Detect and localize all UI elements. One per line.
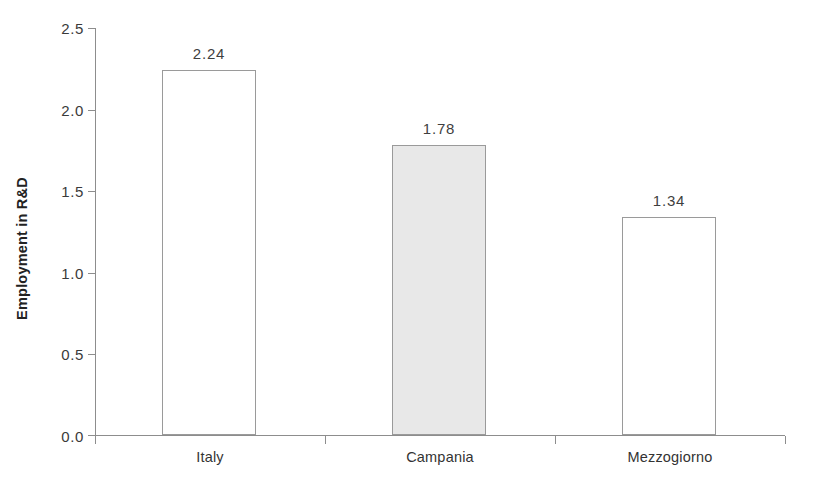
x-tick-mark — [785, 436, 786, 444]
y-tick-label: 0.0 — [40, 428, 84, 445]
bar-value-label-campania: 1.78 — [423, 120, 455, 137]
bar-mezzogiorno — [622, 217, 716, 435]
bar-chart: Employment in R&D 2.5 2.0 1.5 1.0 0.5 0.… — [0, 0, 821, 497]
y-axis-line — [95, 28, 96, 436]
y-tick-label: 1.5 — [40, 183, 84, 200]
y-tick-mark — [88, 191, 95, 192]
y-axis-tick-labels: 2.5 2.0 1.5 1.0 0.5 0.0 — [28, 0, 84, 497]
x-tick-mark — [95, 436, 96, 444]
y-tick-mark — [88, 28, 95, 29]
x-category-label-italy: Italy — [196, 449, 224, 465]
y-tick-label: 0.5 — [40, 346, 84, 363]
x-category-label-campania: Campania — [406, 449, 474, 465]
bar-value-label-italy: 2.24 — [193, 45, 225, 62]
x-axis-line — [95, 435, 785, 436]
y-tick-mark — [88, 435, 95, 436]
bar-value-label-mezzogiorno: 1.34 — [653, 192, 685, 209]
bar-italy — [162, 70, 256, 435]
y-tick-label: 2.0 — [40, 101, 84, 118]
y-tick-mark — [88, 273, 95, 274]
x-category-label-mezzogiorno: Mezzogiorno — [627, 449, 712, 465]
y-tick-label: 1.0 — [40, 264, 84, 281]
y-tick-label: 2.5 — [40, 20, 84, 37]
bar-campania — [392, 145, 486, 435]
y-tick-mark — [88, 110, 95, 111]
x-tick-mark — [325, 436, 326, 444]
x-tick-mark — [555, 436, 556, 444]
y-tick-mark — [88, 354, 95, 355]
